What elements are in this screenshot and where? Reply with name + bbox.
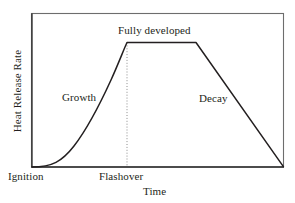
heat-release-rate-curve: [32, 43, 283, 168]
annotation-ignition: Ignition: [8, 170, 44, 182]
x-axis-label: Time: [143, 185, 166, 197]
annotation-fully-developed: Fully developed: [118, 24, 191, 36]
annotation-flashover: Flashover: [99, 170, 143, 182]
annotation-decay: Decay: [199, 92, 228, 104]
y-axis-label: Heat Release Rate: [11, 41, 23, 141]
figure-container: Fully developed Growth Decay Ignition Fl…: [0, 0, 295, 203]
annotation-growth: Growth: [62, 91, 96, 103]
